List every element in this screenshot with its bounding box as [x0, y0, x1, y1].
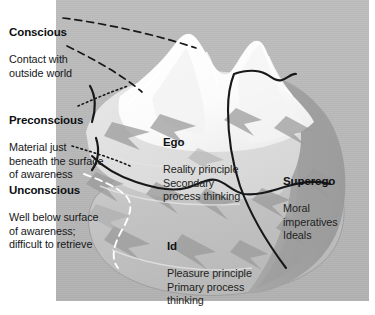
callout-id-heading: Id — [167, 240, 252, 254]
callout-conscious: Conscious Contact with outside world — [9, 12, 72, 94]
callout-conscious-body: Contact with outside world — [9, 53, 72, 80]
callout-unconscious-heading: Unconscious — [9, 184, 99, 198]
callout-ego-heading: Ego — [163, 136, 240, 150]
callout-superego-heading: Superego — [283, 175, 338, 189]
callout-superego: Superego Moral imperatives Ideals — [283, 161, 338, 256]
callout-ego: Ego Reality principle Secondary process … — [163, 122, 240, 217]
callout-ego-body: Reality principle Secondary process thin… — [163, 163, 240, 204]
callout-unconscious: Unconscious Well below surface of awaren… — [9, 170, 99, 265]
conscious-leader-lower — [67, 46, 142, 92]
callout-conscious-heading: Conscious — [9, 26, 72, 40]
callout-unconscious-body: Well below surface of awareness; difficu… — [9, 211, 99, 252]
callout-preconscious-heading: Preconscious — [9, 114, 104, 128]
iceberg-figure: Conscious Contact with outside world Pre… — [0, 0, 375, 315]
callout-id-body: Pleasure principle Primary process think… — [167, 267, 252, 308]
callout-id: Id Pleasure principle Primary process th… — [167, 226, 252, 315]
callout-superego-body: Moral imperatives Ideals — [283, 202, 338, 243]
